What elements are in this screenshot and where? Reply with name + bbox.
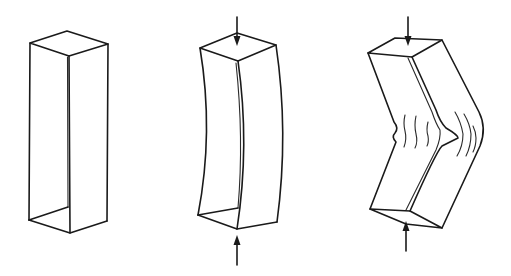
- panel-buckled-column: [0, 0, 511, 276]
- buckled-box: [368, 38, 483, 228]
- load-arrow-top-icon: [405, 17, 412, 46]
- load-arrow-bottom-icon: [403, 221, 410, 251]
- column-buckling-diagram: Unloaded column Column bowing under comp…: [0, 0, 511, 276]
